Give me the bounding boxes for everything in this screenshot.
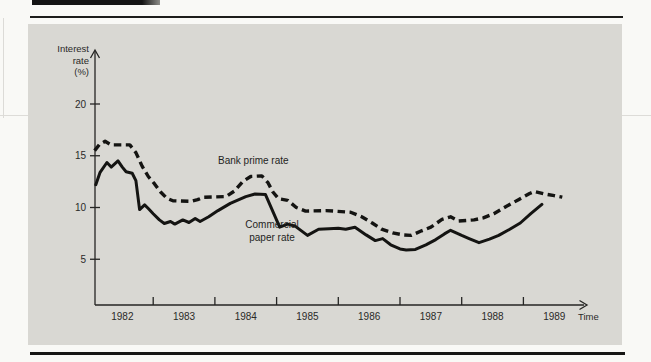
x-tick-label: 1986 — [358, 311, 381, 322]
x-tick-label: 1989 — [543, 311, 566, 322]
y-tick-label: 10 — [75, 202, 87, 213]
y-axis-title-line2: rate — [30, 55, 89, 67]
y-tick-label: 15 — [75, 150, 87, 161]
x-tick-label: 1983 — [173, 311, 196, 322]
commercial-paper-rate-label-line2: paper rate — [204, 231, 340, 244]
page: 510152019821983198419851986198719881989 … — [0, 0, 651, 362]
commercial-paper-rate-label-line1: Commercial — [204, 218, 340, 231]
y-axis-title-line3: (%) — [30, 66, 89, 78]
x-tick-label: 1984 — [235, 311, 258, 322]
scan-artifact-vertical — [3, 18, 4, 118]
x-axis-title: Time — [578, 311, 599, 322]
chart-panel: 510152019821983198419851986198719881989 … — [28, 24, 622, 345]
interest-rate-chart: 510152019821983198419851986198719881989 — [28, 24, 622, 345]
top-rule — [30, 16, 623, 18]
y-tick-label: 5 — [80, 254, 86, 265]
x-tick-label: 1982 — [111, 311, 134, 322]
y-tick-label: 20 — [75, 99, 87, 110]
commercial-paper-rate-label: Commercial paper rate — [204, 218, 340, 244]
y-axis-title-line1: Interest — [30, 43, 89, 55]
bottom-rule — [30, 352, 625, 355]
bank-prime-rate-label: Bank prime rate — [218, 155, 289, 166]
page-header-bar — [32, 0, 160, 5]
x-tick-label: 1988 — [481, 311, 504, 322]
x-tick-label: 1987 — [420, 311, 443, 322]
x-tick-label: 1985 — [296, 311, 319, 322]
y-axis-title: Interest rate (%) — [30, 43, 89, 78]
